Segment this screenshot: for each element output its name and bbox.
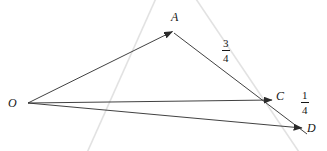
point-label-o: O <box>8 97 17 109</box>
ratio-ac-numerator: 3 <box>222 38 230 50</box>
ratio-cd-denominator: 4 <box>301 104 309 116</box>
guide-line-right <box>194 0 301 151</box>
vector-o-to-a <box>28 32 173 104</box>
ratio-cd-fraction-bar <box>301 102 309 103</box>
vector-o-to-d <box>28 103 302 128</box>
point-label-c: C <box>276 90 284 102</box>
point-label-d: D <box>307 122 316 134</box>
guide-line-left <box>86 0 157 151</box>
ratio-label-cd: 1 4 <box>301 90 309 116</box>
ratio-ac-denominator: 4 <box>222 52 230 64</box>
ratio-ac-fraction-bar <box>222 50 230 51</box>
vector-diagram: O A C D 3 4 1 4 <box>0 0 327 151</box>
ratio-label-ac: 3 4 <box>222 38 230 64</box>
ratio-cd-numerator: 1 <box>301 90 309 102</box>
segment-a-to-d <box>174 33 307 134</box>
diagram-canvas <box>0 0 327 151</box>
vector-o-to-c <box>28 100 272 103</box>
point-label-a: A <box>171 11 178 23</box>
